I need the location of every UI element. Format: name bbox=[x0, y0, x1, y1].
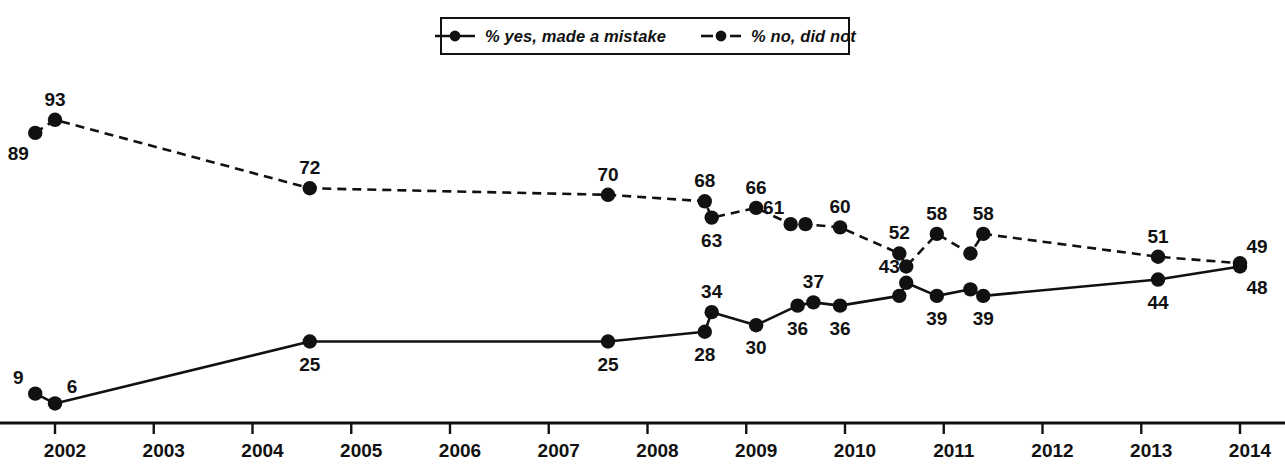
x-tick-label: 2013 bbox=[1130, 441, 1172, 460]
data-label: 49 bbox=[1246, 237, 1267, 256]
data-point[interactable] bbox=[749, 201, 763, 215]
data-point[interactable] bbox=[698, 194, 712, 208]
x-tick-label: 2003 bbox=[143, 441, 185, 460]
data-point[interactable] bbox=[798, 217, 812, 231]
data-label: 68 bbox=[694, 171, 715, 190]
data-point[interactable] bbox=[48, 396, 62, 410]
data-point[interactable] bbox=[806, 295, 820, 309]
data-point[interactable] bbox=[963, 246, 977, 260]
data-point[interactable] bbox=[1151, 250, 1165, 264]
data-point[interactable] bbox=[601, 188, 615, 202]
data-label: 39 bbox=[926, 308, 947, 327]
data-point[interactable] bbox=[892, 289, 906, 303]
legend-item-yes[interactable]: % yes, made a mistake bbox=[434, 27, 666, 46]
data-label: 43 bbox=[879, 256, 900, 275]
x-tick-label: 2005 bbox=[340, 441, 382, 460]
chart-legend: % yes, made a mistake % no, did not bbox=[440, 17, 850, 55]
series-line bbox=[35, 120, 1240, 267]
x-tick-label: 2012 bbox=[1031, 441, 1073, 460]
data-label: 6 bbox=[67, 377, 78, 396]
data-label: 60 bbox=[829, 197, 850, 216]
data-point[interactable] bbox=[601, 334, 615, 348]
x-axis bbox=[0, 423, 1285, 434]
series-yes bbox=[28, 259, 1247, 410]
data-point[interactable] bbox=[698, 325, 712, 339]
data-label: 39 bbox=[973, 308, 994, 327]
data-label: 66 bbox=[746, 177, 767, 196]
data-label: 70 bbox=[597, 164, 618, 183]
data-point[interactable] bbox=[833, 220, 847, 234]
data-label: 63 bbox=[701, 230, 722, 249]
data-point[interactable] bbox=[303, 181, 317, 195]
data-point[interactable] bbox=[48, 113, 62, 127]
data-point[interactable] bbox=[899, 276, 913, 290]
data-label: 48 bbox=[1246, 277, 1267, 296]
data-label: 58 bbox=[926, 203, 947, 222]
data-point[interactable] bbox=[790, 298, 804, 312]
data-label: 51 bbox=[1147, 226, 1168, 245]
data-point[interactable] bbox=[303, 334, 317, 348]
data-label: 37 bbox=[803, 272, 824, 291]
data-label: 36 bbox=[787, 318, 808, 337]
x-tick-label: 2007 bbox=[538, 441, 580, 460]
x-tick-label: 2014 bbox=[1229, 441, 1271, 460]
x-tick-label: 2009 bbox=[735, 441, 777, 460]
data-label: 30 bbox=[746, 338, 767, 357]
x-tick-label: 2006 bbox=[439, 441, 481, 460]
data-label: 72 bbox=[299, 158, 320, 177]
data-point[interactable] bbox=[1233, 256, 1247, 270]
legend-label-yes: % yes, made a mistake bbox=[485, 27, 666, 46]
data-point[interactable] bbox=[930, 227, 944, 241]
data-label: 9 bbox=[13, 367, 24, 386]
x-tick-label: 2002 bbox=[44, 441, 86, 460]
data-label: 36 bbox=[829, 318, 850, 337]
legend-key-dashed-icon bbox=[700, 29, 742, 43]
x-tick-label: 2008 bbox=[636, 441, 678, 460]
data-point[interactable] bbox=[28, 386, 42, 400]
x-tick-label: 2011 bbox=[933, 441, 974, 460]
data-label: 89 bbox=[8, 143, 29, 162]
data-point[interactable] bbox=[783, 217, 797, 231]
data-point[interactable] bbox=[976, 289, 990, 303]
data-label: 93 bbox=[44, 89, 65, 108]
data-point[interactable] bbox=[899, 259, 913, 273]
data-label: 61 bbox=[763, 198, 784, 217]
data-point[interactable] bbox=[1151, 272, 1165, 286]
data-point[interactable] bbox=[833, 298, 847, 312]
x-tick-label: 2010 bbox=[834, 441, 876, 460]
x-tick-label: 2004 bbox=[241, 441, 283, 460]
data-label: 28 bbox=[694, 344, 715, 363]
plot-area bbox=[0, 0, 1285, 475]
line-chart: 9625252834303637364339394448899372706863… bbox=[0, 0, 1285, 475]
legend-key-solid-icon bbox=[434, 29, 476, 43]
data-label: 25 bbox=[597, 354, 618, 373]
data-point[interactable] bbox=[976, 227, 990, 241]
data-point[interactable] bbox=[704, 305, 718, 319]
data-label: 34 bbox=[701, 282, 722, 301]
data-label: 44 bbox=[1147, 292, 1168, 311]
legend-label-no: % no, did not bbox=[751, 27, 856, 46]
data-point[interactable] bbox=[704, 210, 718, 224]
data-point[interactable] bbox=[930, 289, 944, 303]
data-point[interactable] bbox=[28, 126, 42, 140]
data-label: 52 bbox=[889, 223, 910, 242]
legend-item-no[interactable]: % no, did not bbox=[700, 27, 856, 46]
series-no bbox=[28, 113, 1247, 274]
data-label: 25 bbox=[299, 354, 320, 373]
series-line bbox=[35, 267, 1240, 404]
data-point[interactable] bbox=[963, 282, 977, 296]
data-label: 58 bbox=[973, 203, 994, 222]
data-point[interactable] bbox=[749, 318, 763, 332]
